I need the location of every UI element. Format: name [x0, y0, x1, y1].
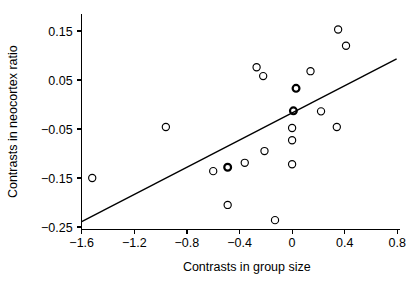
- data-point: [89, 174, 96, 181]
- data-point: [260, 72, 267, 79]
- y-tick-label: 0.15: [48, 25, 72, 39]
- y-tick-label: −0.25: [41, 221, 73, 235]
- x-tick-label: 0.4: [336, 236, 353, 250]
- data-point: [224, 164, 231, 171]
- data-point: [261, 147, 268, 154]
- x-tick-label: −1.6: [69, 236, 94, 250]
- y-tick-label: −0.05: [41, 123, 73, 137]
- y-tick-label: −0.15: [41, 172, 73, 186]
- data-point: [162, 123, 169, 130]
- data-point: [307, 68, 314, 75]
- data-point: [210, 168, 217, 175]
- data-points: [89, 26, 350, 224]
- axis-labels: 0.150.05−0.05−0.15−0.25−1.6−1.2−0.8−0.40…: [6, 25, 406, 275]
- data-point: [335, 26, 342, 33]
- x-axis-title: Contrasts in group size: [183, 260, 311, 274]
- data-point: [333, 123, 340, 130]
- data-point: [289, 124, 296, 131]
- regression-line: [82, 59, 397, 222]
- data-point: [289, 161, 296, 168]
- data-point: [289, 137, 296, 144]
- x-tick-label: −1.2: [122, 236, 147, 250]
- x-tick-label: 0.8: [389, 236, 406, 250]
- x-tick-label: 0: [289, 236, 296, 250]
- data-point: [271, 217, 278, 224]
- data-point: [342, 42, 349, 49]
- data-point: [253, 64, 260, 71]
- plot-canvas: 0.150.05−0.05−0.15−0.25−1.6−1.2−0.8−0.40…: [0, 0, 419, 302]
- y-axis-title: Contrasts in neocortex ratio: [6, 45, 20, 198]
- data-point: [317, 108, 324, 115]
- x-tick-label: −0.8: [175, 236, 200, 250]
- data-point: [241, 159, 248, 166]
- data-point: [224, 201, 231, 208]
- x-tick-label: −0.4: [227, 236, 252, 250]
- fit-line: [82, 59, 397, 222]
- scatter-plot-figure: 0.150.05−0.05−0.15−0.25−1.6−1.2−0.8−0.40…: [0, 0, 419, 302]
- axes: [77, 14, 400, 235]
- data-point: [290, 107, 297, 114]
- data-point: [293, 85, 300, 92]
- y-tick-label: 0.05: [48, 74, 72, 88]
